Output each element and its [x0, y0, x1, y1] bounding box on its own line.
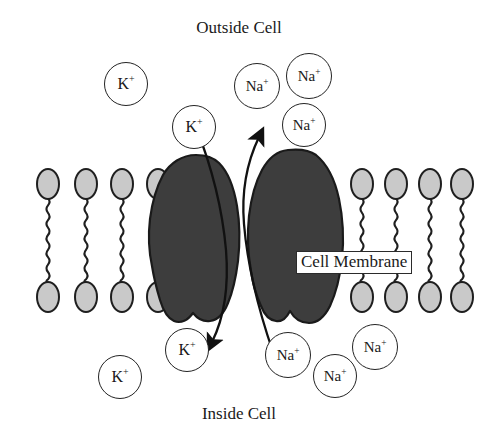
- ion-label: Na+: [277, 347, 300, 362]
- ion-label: Na+: [246, 78, 269, 93]
- ion-na-outside: Na+: [286, 53, 332, 99]
- cell-membrane-diagram: K+K+Na+Na+Na+K+K+Na+Na+Na+ Outside Cell …: [0, 0, 478, 438]
- ion-na-outside: Na+: [234, 63, 280, 109]
- ion-label: Na+: [298, 68, 321, 83]
- ion-na-inside: Na+: [313, 354, 357, 398]
- ion-label: Na+: [364, 339, 387, 354]
- ion-na-inside: Na+: [265, 332, 311, 378]
- ion-k-inside: K+: [165, 328, 209, 372]
- ion-label: K+: [178, 342, 195, 358]
- ion-label: Na+: [324, 368, 347, 383]
- cell-membrane-label: Cell Membrane: [296, 251, 412, 274]
- ion-k-outside: K+: [172, 105, 216, 149]
- sodium-out-arrow: [243, 137, 273, 352]
- ion-k-outside: K+: [104, 62, 148, 106]
- ion-label: K+: [117, 76, 134, 92]
- ion-label: Na+: [293, 117, 316, 132]
- ion-label: K+: [111, 369, 128, 385]
- ion-label: K+: [185, 119, 202, 135]
- potassium-in-arrow: [196, 127, 227, 342]
- ion-na-outside: Na+: [282, 103, 326, 147]
- ion-k-inside: K+: [98, 355, 142, 399]
- ion-transport-arrows: [0, 0, 478, 438]
- ion-na-inside: Na+: [352, 324, 398, 370]
